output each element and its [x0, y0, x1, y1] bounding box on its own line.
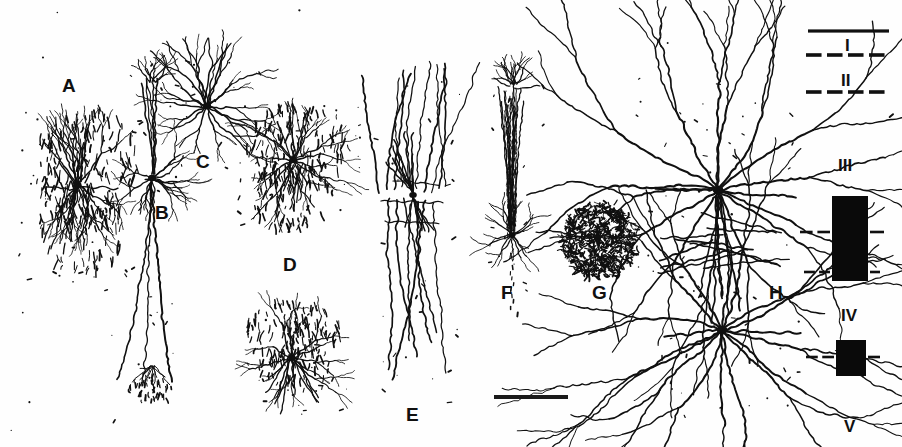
layer-label-I: I: [845, 37, 850, 54]
layer-IV-bar: [836, 340, 866, 376]
panel-label-A: A: [62, 76, 76, 95]
layer-label-II: II: [841, 72, 850, 89]
panel-label-D: D: [283, 255, 297, 274]
layer-III-bar: [832, 196, 868, 281]
panel-label-F: F: [501, 283, 513, 302]
panel-label-B: B: [155, 203, 169, 222]
panel-label-E: E: [406, 405, 419, 424]
layer-label-III: III: [838, 157, 852, 174]
neuron-figure: A B C D E F G H I II III IV V: [0, 0, 902, 447]
panel-label-C: C: [196, 152, 210, 171]
layer-label-IV: IV: [841, 307, 857, 324]
panel-label-H: H: [769, 283, 783, 302]
panel-label-G: G: [592, 283, 607, 302]
neuron-drawings-canvas: [0, 0, 902, 447]
layer-label-V: V: [844, 418, 855, 435]
